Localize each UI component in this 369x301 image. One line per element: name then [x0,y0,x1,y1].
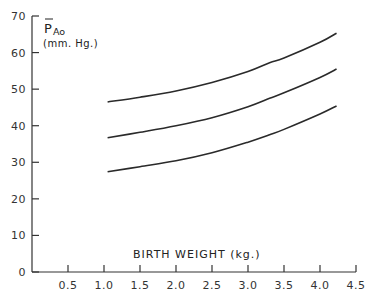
x-tick-label: 4.5 [347,279,366,292]
x-axis-title: BIRTH WEIGHT (kg.) [133,248,261,261]
x-tick-label: 3.5 [275,279,294,292]
series-line-upper [108,33,337,102]
x-tick-label: 1.0 [95,279,114,292]
y-axis-label: P Ao (mm. Hg.) [43,19,98,49]
y-tick-label: 30 [11,156,26,169]
x-tick-label: 2.5 [203,279,222,292]
curves [108,33,337,172]
y-label-units: (mm. Hg.) [43,38,98,49]
x-tick-label: 1.5 [131,279,150,292]
chart: 010203040506070 0.51.01.52.02.53.03.54.0… [0,0,369,301]
y-label-symbol: P [44,21,52,36]
series-line-lower [108,106,337,172]
x-ticks: 0.51.01.52.02.53.03.54.04.5 [59,265,366,292]
x-tick-label: 2.0 [167,279,186,292]
y-tick-label: 40 [11,120,26,133]
y-tick-label: 70 [11,10,26,23]
y-tick-label: 20 [11,193,26,206]
x-tick-label: 3.0 [239,279,258,292]
y-tick-label: 10 [11,229,26,242]
y-tick-label: 60 [11,47,26,60]
y-ticks: 010203040506070 [11,10,39,279]
y-tick-label: 50 [11,83,26,96]
axes [32,16,356,272]
y-tick-label: 0 [19,266,27,279]
x-tick-label: 0.5 [59,279,78,292]
x-tick-label: 4.0 [311,279,330,292]
y-label-subscript: Ao [53,26,65,37]
